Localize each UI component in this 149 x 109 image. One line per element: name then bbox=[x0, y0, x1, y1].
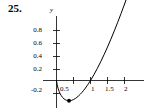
y-tick-label-neg0.2: -0.2 bbox=[18, 87, 42, 94]
y-tick-label-0.2: 0.2 bbox=[22, 66, 42, 73]
y-tick-label-0.8: 0.8 bbox=[22, 27, 42, 34]
figure-container: 25. y 0.8 0.6 0.4 0.2 -0.2 0.5 1 1.5 2 bbox=[0, 0, 149, 109]
x-tick-label-1.5: 1.5 bbox=[105, 86, 114, 93]
x-tick-label-0.5: 0.5 bbox=[60, 86, 69, 93]
y-tick-label-0.4: 0.4 bbox=[22, 53, 42, 60]
minimum-point-marker bbox=[67, 99, 71, 103]
x-tick-label-2: 2 bbox=[124, 86, 128, 93]
y-tick-label-0.6: 0.6 bbox=[22, 40, 42, 47]
y-axis-label: y bbox=[50, 7, 53, 14]
plot-area: y 0.8 0.6 0.4 0.2 -0.2 0.5 1 1.5 2 bbox=[0, 0, 149, 109]
function-curve-extension bbox=[125, 0, 127, 4]
x-tick-label-1: 1 bbox=[91, 86, 95, 93]
